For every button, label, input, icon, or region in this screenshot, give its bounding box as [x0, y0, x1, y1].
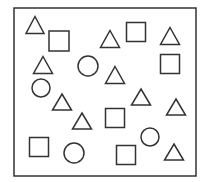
- triangle-shape: [73, 113, 92, 129]
- square-shape: [49, 31, 69, 51]
- triangle-shape: [101, 31, 120, 48]
- circle-shape: [32, 79, 50, 97]
- square-shape: [127, 23, 146, 42]
- shapes-group: [26, 17, 186, 165]
- triangle-shape: [132, 89, 151, 105]
- square-shape: [117, 146, 136, 165]
- square-shape: [30, 138, 49, 157]
- triangle-shape: [34, 57, 53, 74]
- circle-shape: [64, 143, 84, 163]
- square-shape: [161, 55, 180, 74]
- shapes-figure: [0, 0, 207, 182]
- triangle-shape: [106, 67, 125, 84]
- triangle-shape: [53, 94, 72, 110]
- circle-shape: [78, 56, 98, 76]
- triangle-shape: [26, 17, 44, 34]
- triangle-shape: [167, 99, 186, 115]
- circle-shape: [141, 128, 159, 146]
- triangle-shape: [165, 144, 184, 160]
- square-shape: [106, 109, 125, 128]
- triangle-shape: [161, 28, 180, 45]
